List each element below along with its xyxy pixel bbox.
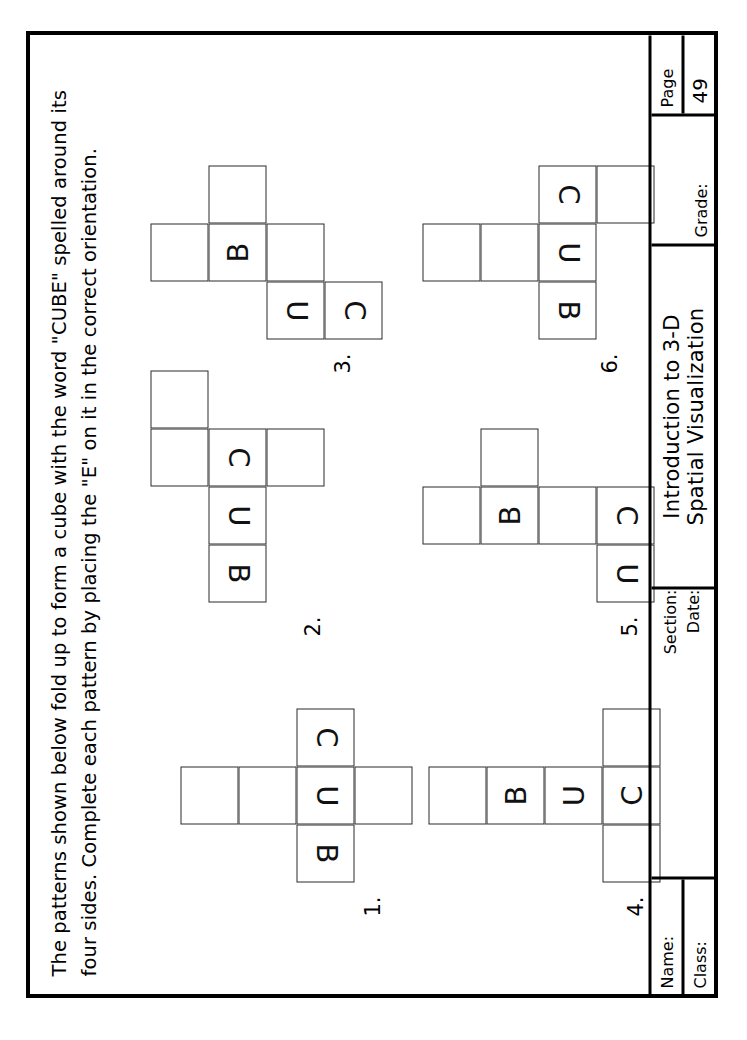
- page-label-row: Page: [651, 35, 684, 113]
- net-cell-glyph: B: [553, 300, 582, 320]
- title-block-grade-cell[interactable]: Grade:: [651, 113, 714, 243]
- net-cell-letter-C[interactable]: C: [296, 708, 354, 766]
- net-cell-glyph: B: [223, 242, 252, 262]
- pattern-number-label: 1.: [360, 896, 384, 916]
- net-cell-letter-U[interactable]: U: [538, 223, 596, 281]
- worksheet-title-line2: Spatial Visualization: [683, 307, 707, 525]
- net-cell-letter-U[interactable]: U: [208, 486, 266, 544]
- net-cell-letter-C[interactable]: C: [208, 428, 266, 486]
- net-cell-letter-B[interactable]: B: [486, 766, 544, 824]
- net-cell-blank[interactable]: [208, 165, 266, 223]
- net-cell-letter-U[interactable]: U: [266, 281, 324, 339]
- net-cell-blank[interactable]: [596, 165, 654, 223]
- title-block-name-class-cell: Name: Class:: [651, 876, 714, 994]
- pattern-number-label: 4.: [623, 896, 647, 916]
- net-cell-glyph: B: [311, 843, 340, 863]
- class-field[interactable]: Class:: [684, 879, 714, 994]
- pattern-number-label: 2.: [300, 616, 324, 636]
- net-cell-letter-B[interactable]: B: [538, 281, 596, 339]
- net-cell-glyph: C: [311, 727, 340, 747]
- net-cell-glyph: U: [611, 562, 640, 583]
- worksheet-page-border: The patterns shown below fold up to form…: [26, 31, 718, 998]
- net-cell-glyph: B: [495, 505, 524, 525]
- net-cell-blank[interactable]: [538, 486, 596, 544]
- net-cell-glyph: B: [501, 785, 530, 805]
- net-cell-blank[interactable]: [266, 223, 324, 281]
- net-cell-letter-U[interactable]: U: [296, 766, 354, 824]
- net-cell-letter-B[interactable]: B: [208, 544, 266, 602]
- title-block: Name: Class: Section: Date: Introduction…: [648, 35, 714, 994]
- net-cell-blank[interactable]: [480, 428, 538, 486]
- net-cell-glyph: C: [611, 505, 640, 525]
- name-field[interactable]: Name:: [651, 879, 684, 994]
- net-cell-letter-U[interactable]: U: [596, 544, 654, 602]
- pattern-number-label: 6.: [597, 353, 621, 373]
- net-cell-glyph: C: [223, 447, 252, 467]
- title-block-section-date-cell[interactable]: Section: Date:: [651, 586, 714, 876]
- section-label: Section:: [660, 589, 683, 654]
- net-cell-blank[interactable]: [354, 766, 412, 824]
- pattern-number-label: 5.: [617, 616, 641, 636]
- grade-label: Grade:: [691, 183, 714, 243]
- page-number: 49: [687, 78, 711, 113]
- net-cell-glyph: C: [617, 785, 646, 805]
- name-label: Name:: [657, 935, 676, 994]
- date-label: Date:: [683, 589, 706, 633]
- net-cell-blank[interactable]: [480, 223, 538, 281]
- net-cell-blank[interactable]: [422, 223, 480, 281]
- net-cell-blank[interactable]: [180, 766, 238, 824]
- net-cell-blank[interactable]: [150, 428, 208, 486]
- page-label: Page: [657, 68, 676, 113]
- net-cell-letter-C[interactable]: C: [596, 486, 654, 544]
- net-cell-glyph: U: [559, 784, 588, 805]
- net-cell-letter-C[interactable]: C: [324, 281, 382, 339]
- net-cell-glyph: C: [553, 184, 582, 204]
- page-number-row: 49: [684, 35, 714, 113]
- net-cell-blank[interactable]: [150, 223, 208, 281]
- net-cell-blank[interactable]: [238, 766, 296, 824]
- class-label: Class:: [690, 941, 709, 994]
- net-cell-glyph: U: [223, 504, 252, 525]
- net-cell-glyph: C: [339, 300, 368, 320]
- net-cell-blank[interactable]: [422, 486, 480, 544]
- net-cell-blank[interactable]: [266, 428, 324, 486]
- net-cell-glyph: U: [553, 241, 582, 262]
- title-block-title-cell: Introduction to 3-D Spatial Visualizatio…: [651, 243, 714, 586]
- instructions-text: The patterns shown below fold up to form…: [44, 71, 104, 976]
- net-cell-letter-C[interactable]: C: [538, 165, 596, 223]
- net-cell-blank[interactable]: [150, 370, 208, 428]
- net-cell-glyph: U: [311, 784, 340, 805]
- net-cell-glyph: U: [281, 299, 310, 320]
- page-content-rotated: The patterns shown below fold up to form…: [30, 35, 714, 994]
- net-cell-letter-B[interactable]: B: [296, 824, 354, 882]
- net-cell-letter-U[interactable]: U: [544, 766, 602, 824]
- title-block-page-cell: Page 49: [651, 35, 714, 113]
- net-cell-letter-B[interactable]: B: [208, 223, 266, 281]
- net-cell-blank[interactable]: [428, 766, 486, 824]
- pattern-number-label: 3.: [330, 353, 354, 373]
- net-cell-glyph: B: [223, 563, 252, 583]
- worksheet-title-line1: Introduction to 3-D: [659, 314, 683, 518]
- net-cell-letter-B[interactable]: B: [480, 486, 538, 544]
